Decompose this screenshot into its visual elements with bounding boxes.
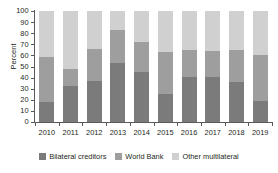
bar-segment[interactable] bbox=[182, 11, 197, 50]
bar-group[interactable] bbox=[63, 11, 78, 122]
bar-segment[interactable] bbox=[229, 11, 244, 50]
bar-segment[interactable] bbox=[205, 51, 220, 77]
y-axis-tick-label: 50 bbox=[20, 62, 28, 71]
bar-segment[interactable] bbox=[205, 77, 220, 123]
y-axis-tick-label: 20 bbox=[20, 95, 28, 104]
x-axis-labels: 2010201120122013201420152016201720182019 bbox=[35, 128, 272, 140]
bar-segment[interactable] bbox=[63, 69, 78, 87]
y-axis-title: Percent bbox=[9, 27, 18, 87]
bar-segment[interactable] bbox=[229, 82, 244, 122]
bar-group[interactable] bbox=[87, 11, 102, 122]
bar-segment[interactable] bbox=[253, 55, 268, 101]
x-axis-tick-mark bbox=[225, 122, 226, 126]
bar-segment[interactable] bbox=[253, 11, 268, 55]
x-axis-tick-label: 2019 bbox=[245, 128, 275, 138]
bar-segment[interactable] bbox=[87, 49, 102, 81]
legend-label: World Bank bbox=[125, 152, 163, 161]
bar-segment[interactable] bbox=[229, 50, 244, 82]
legend-item[interactable]: Bilateral creditors bbox=[39, 152, 106, 161]
y-axis-tick-label: 70 bbox=[20, 40, 28, 49]
bar-segment[interactable] bbox=[39, 102, 54, 122]
x-axis-tick-mark bbox=[248, 122, 249, 126]
chart-legend: Bilateral creditorsWorld BankOther multi… bbox=[0, 152, 278, 161]
y-axis-tick-label: 30 bbox=[20, 84, 28, 93]
bar-group[interactable] bbox=[110, 11, 125, 122]
bar-segment[interactable] bbox=[110, 11, 125, 30]
bar-segment[interactable] bbox=[134, 72, 149, 123]
bar-segment[interactable] bbox=[182, 77, 197, 123]
bar-segment[interactable] bbox=[158, 11, 173, 52]
bar-segment[interactable] bbox=[63, 86, 78, 122]
legend-swatch-icon bbox=[115, 153, 122, 160]
bar-group[interactable] bbox=[158, 11, 173, 122]
bar-segment[interactable] bbox=[63, 11, 78, 69]
x-axis-tick-mark bbox=[59, 122, 60, 126]
x-axis-tick-mark bbox=[272, 122, 273, 126]
x-axis-tick-mark bbox=[130, 122, 131, 126]
y-axis-tick-label: 90 bbox=[20, 18, 28, 27]
x-axis-tick-mark bbox=[201, 122, 202, 126]
y-axis-tick-label: 0 bbox=[24, 117, 28, 126]
x-axis-tick-mark bbox=[177, 122, 178, 126]
legend-swatch-icon bbox=[39, 153, 46, 160]
bar-segment[interactable] bbox=[182, 50, 197, 77]
bar-group[interactable] bbox=[134, 11, 149, 122]
legend-label: Bilateral creditors bbox=[49, 152, 106, 161]
bar-group[interactable] bbox=[182, 11, 197, 122]
y-axis-tick-label: 100 bbox=[16, 6, 28, 15]
bar-group[interactable] bbox=[39, 11, 54, 122]
y-axis-tick-label: 80 bbox=[20, 29, 28, 38]
y-axis-tick-label: 10 bbox=[20, 106, 28, 115]
bar-segment[interactable] bbox=[110, 30, 125, 63]
bar-group[interactable] bbox=[229, 11, 244, 122]
x-axis-tick-mark bbox=[106, 122, 107, 126]
bar-segment[interactable] bbox=[253, 101, 268, 122]
bar-segment[interactable] bbox=[205, 11, 220, 51]
plot-area bbox=[35, 11, 272, 122]
bar-segment[interactable] bbox=[39, 11, 54, 57]
x-axis-tick-mark bbox=[82, 122, 83, 126]
legend-item[interactable]: Other multilateral bbox=[172, 152, 238, 161]
bar-segment[interactable] bbox=[87, 81, 102, 122]
legend-swatch-icon bbox=[172, 153, 179, 160]
x-axis-tick-mark bbox=[154, 122, 155, 126]
bar-segment[interactable] bbox=[134, 11, 149, 42]
bar-group[interactable] bbox=[205, 11, 220, 122]
bar-group[interactable] bbox=[253, 11, 268, 122]
legend-item[interactable]: World Bank bbox=[115, 152, 163, 161]
bar-segment[interactable] bbox=[87, 11, 102, 49]
stacked-bar-chart: Percent 0102030405060708090100 201020112… bbox=[0, 0, 278, 173]
bar-segment[interactable] bbox=[158, 52, 173, 94]
legend-label: Other multilateral bbox=[182, 152, 238, 161]
x-axis-tick-mark bbox=[35, 122, 36, 126]
bar-segment[interactable] bbox=[158, 94, 173, 122]
bar-segment[interactable] bbox=[39, 57, 54, 103]
bar-segment[interactable] bbox=[134, 42, 149, 72]
bar-segment[interactable] bbox=[110, 63, 125, 122]
y-axis-tick-label: 60 bbox=[20, 51, 28, 60]
y-axis-tick-label: 40 bbox=[20, 73, 28, 82]
